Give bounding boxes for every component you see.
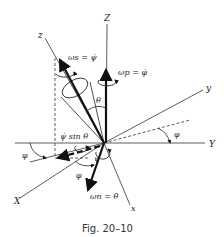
phi-arc-bottom [75,161,94,166]
label-theta: θ [96,96,101,105]
label-spin-component: ψ̇ sin θ [60,132,88,141]
y-axis [104,90,203,143]
label-x: x [131,204,136,213]
phi-arc-left [30,143,46,158]
label-phi-bottom: φ [76,171,82,180]
phi-arc-right [158,128,170,143]
X-axis [20,143,104,198]
label-phi-right: φ [174,130,180,139]
label-precession: ωp = φ̇ [118,68,147,77]
label-spin: ωs = ψ̇ [68,53,97,62]
label-y: y [205,83,212,93]
label-X: X [13,196,21,206]
label-z: z [37,30,43,40]
nutation-vector [88,143,104,190]
label-psi: ψ [94,155,100,163]
label-phi-left: φ [22,151,28,160]
nodal-line-left [30,143,104,162]
label-nutation: ωn = θ̇ [90,192,118,201]
theta-arc [88,106,106,110]
euler-angles-diagram: Z z y Y X x ωs = ψ̇ ωp = φ̇ ωn = θ̇ ψ̇ s… [0,0,224,237]
figure-caption: Fig. 20–10 [82,223,133,234]
label-Y: Y [209,139,216,149]
label-Z: Z [103,13,111,23]
